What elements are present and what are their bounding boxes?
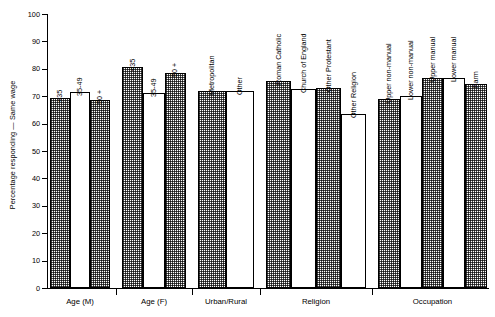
bar-chart: Percentage responding — Same wage 010203… [0, 0, 495, 317]
group-label: Occupation [373, 297, 493, 306]
y-axis-tick [42, 96, 47, 97]
bar [122, 67, 143, 288]
y-axis-tick [42, 233, 47, 234]
bar-label: Other Protestant [325, 39, 332, 92]
y-axis-tick [42, 178, 47, 179]
bar-label: Lower manual [450, 37, 457, 82]
bar-label: 50 + [171, 63, 178, 77]
bar-label: Lower non-manual [407, 41, 414, 101]
bar-label: Roman Catholic [275, 34, 282, 85]
y-axis-tick [42, 261, 47, 262]
bar [291, 89, 316, 288]
group-label: Religion [256, 297, 376, 306]
y-axis-tick-label: 70 [18, 93, 40, 100]
bar-label: Other Religion [350, 72, 357, 118]
bar-label: 35-49 [150, 79, 157, 97]
bar [50, 98, 70, 288]
y-axis-tick-label: 90 [18, 38, 40, 45]
bar [316, 88, 341, 288]
y-axis-tick-label: 80 [18, 65, 40, 72]
y-axis-tick [42, 41, 47, 42]
y-axis-tick [42, 151, 47, 152]
bar [266, 81, 291, 288]
bar-label: Church of England [300, 34, 307, 94]
x-axis-group-separator [116, 289, 117, 295]
bar-label: <35 [129, 59, 136, 71]
y-axis-tick-label: 10 [18, 257, 40, 264]
bar [465, 84, 487, 288]
y-axis-tick-label: 40 [18, 175, 40, 182]
bar [70, 92, 90, 288]
y-axis-tick [42, 14, 47, 15]
bar [90, 100, 110, 288]
y-axis-tick-label: 20 [18, 230, 40, 237]
bar [378, 99, 400, 288]
y-axis-title: Percentage responding — Same wage [2, 0, 11, 60]
y-axis-tick-label: 50 [18, 148, 40, 155]
bar-label: Upper manual [429, 37, 436, 82]
bar [341, 114, 366, 288]
bar-label: Farm [472, 71, 479, 88]
bar-label: <35 [56, 89, 63, 101]
bar [422, 78, 444, 288]
bar [226, 91, 254, 288]
y-axis-tick [42, 69, 47, 70]
y-axis-tick [42, 124, 47, 125]
y-axis-line [47, 14, 48, 289]
x-axis-line [47, 288, 489, 289]
bar-label: 35-49 [76, 78, 83, 96]
y-axis-tick-label: 100 [18, 11, 40, 18]
bar [400, 96, 422, 288]
y-axis-title-label: Percentage responding — Same wage [8, 60, 17, 230]
y-axis-tick-label: 30 [18, 202, 40, 209]
y-axis-tick-label: 0 [18, 285, 40, 292]
x-axis-group-separator [192, 289, 193, 295]
bar [165, 73, 186, 288]
bar-label: Other [236, 77, 243, 95]
bar [143, 93, 164, 288]
bar-label: 50 + [96, 90, 103, 104]
bar [443, 78, 465, 288]
x-axis-group-separator [260, 289, 261, 295]
y-axis-tick [42, 206, 47, 207]
x-axis-group-separator [372, 289, 373, 295]
bar-label: Upper non-manual [385, 43, 392, 103]
bar [198, 91, 226, 288]
y-axis-tick-label: 60 [18, 120, 40, 127]
bar-label: Metropolitan [208, 55, 215, 95]
